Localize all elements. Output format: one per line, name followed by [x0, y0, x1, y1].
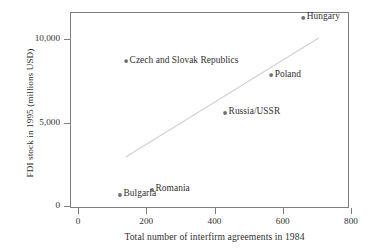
data-point-marker: [124, 59, 128, 63]
data-point-label: Romania: [156, 183, 190, 193]
data-point-label: Czech and Slovak Republics: [130, 55, 239, 65]
data-point-label: Poland: [275, 69, 301, 79]
data-layer: [0, 0, 387, 252]
scatter-plot-figure: FDI stock in 1995 (millions USD) Total n…: [0, 0, 387, 252]
data-point-marker: [301, 16, 305, 20]
data-point-marker: [269, 73, 273, 77]
data-point-marker: [223, 111, 227, 115]
data-point-label: Hungary: [307, 11, 340, 21]
data-point-label: Russia/USSR: [229, 106, 281, 116]
data-point-marker: [118, 193, 122, 197]
data-point-label: Bulgaria: [123, 188, 156, 198]
